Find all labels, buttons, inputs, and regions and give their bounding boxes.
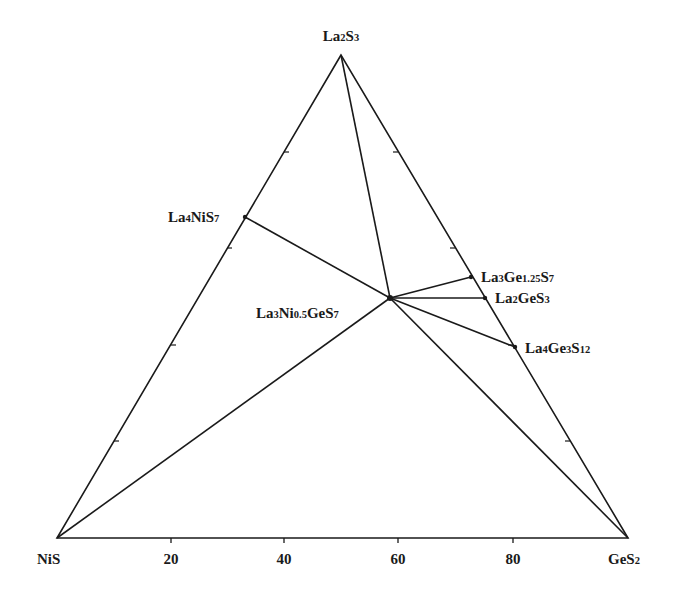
vertex-label-ges2: GeS2 xyxy=(608,551,640,567)
vertex-label-la2s3: La2S3 xyxy=(323,28,359,44)
tie-line xyxy=(341,55,390,298)
tie-line xyxy=(57,298,390,538)
tie-line xyxy=(390,277,471,298)
bottom-tick-label: 20 xyxy=(164,551,179,567)
compound-label: La4Ge3S12 xyxy=(525,340,590,356)
bottom-tick-label: 80 xyxy=(506,551,521,567)
vertex-label-nis: NiS xyxy=(37,551,60,567)
bottom-tick-label: 60 xyxy=(391,551,406,567)
compound-label: La3Ni0.5GeS7 xyxy=(256,305,339,321)
labels: La2S3NiSGeS2La4NiS7La3Ni0.5GeS7La3Ge1.25… xyxy=(37,28,640,567)
compound-point xyxy=(483,296,487,300)
bottom-tick-label: 40 xyxy=(277,551,292,567)
compound-point xyxy=(469,275,473,279)
compound-point xyxy=(387,295,393,301)
compound-label: La2GeS3 xyxy=(495,290,550,306)
ternary-phase-diagram: 20406080 La2S3NiSGeS2La4NiS7La3Ni0.5GeS7… xyxy=(0,0,683,598)
tie-line xyxy=(245,217,390,298)
compound-point xyxy=(243,215,247,219)
compound-point xyxy=(513,345,517,349)
compound-label: La3Ge1.25S7 xyxy=(481,269,554,285)
tie-line xyxy=(390,298,628,538)
compound-label: La4NiS7 xyxy=(168,209,219,225)
